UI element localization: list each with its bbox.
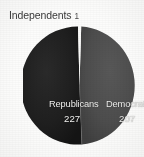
slice-value-republicans: 227	[64, 113, 80, 124]
pie-graphic: Republicans 227 Democrats 207	[23, 26, 136, 145]
pie-slice-democrats	[80, 27, 135, 145]
slice-label-democrats: Democrats	[106, 99, 144, 109]
pie-chart-figure: Independents 1	[0, 0, 144, 157]
chart-title-value: 1	[74, 12, 79, 21]
pie-svg	[23, 26, 136, 145]
slice-value-democrats: 207	[119, 113, 135, 124]
chart-title-label: Independents	[9, 9, 71, 21]
slice-label-republicans: Republicans	[49, 99, 99, 109]
pie-slice-republicans	[23, 27, 82, 145]
chart-title: Independents 1	[9, 9, 79, 21]
